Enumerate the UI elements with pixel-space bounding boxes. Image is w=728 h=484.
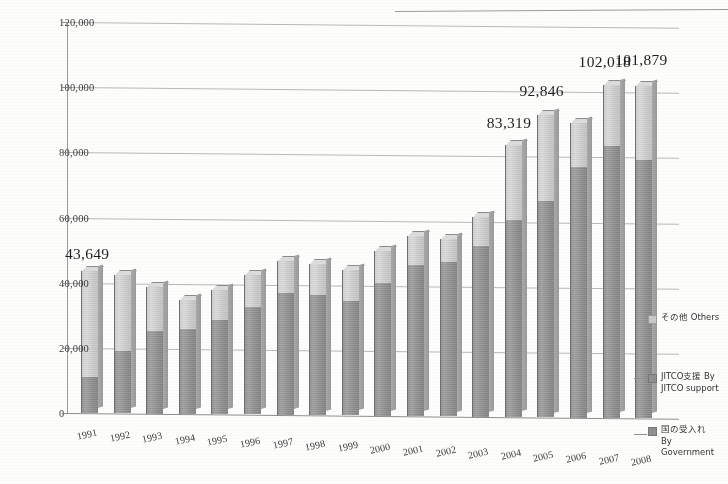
segment-government [81,377,98,413]
bar-side-face [424,230,429,411]
bar-1997 [277,261,294,414]
x-tick-label: 2000 [369,441,391,456]
bar-2001 [407,236,424,416]
bar-2007 [603,85,620,417]
bar-side-face [652,80,657,414]
x-tick-label: 1998 [304,438,326,453]
legend-leader-line [634,378,647,379]
segment-others [472,217,489,246]
segment-government [114,351,131,414]
bar-series-group [67,22,679,413]
bar-stack [374,251,391,416]
bar-side-face [98,264,103,408]
bar-stack [146,287,163,414]
segment-others [146,287,163,331]
segment-government [211,320,228,414]
bar-stack [635,86,652,418]
segment-others [211,290,228,320]
segment-others [277,261,294,292]
segment-government [342,301,359,416]
bar-stack [570,123,587,418]
bar-1999 [342,270,359,415]
segment-others [537,115,554,201]
x-tick-label: 2007 [598,452,620,467]
segment-government [537,201,554,418]
plot-area [67,22,679,413]
bar-side-face [522,139,527,412]
bar-side-face [163,280,168,409]
segment-others [309,264,326,296]
segment-government [603,146,620,418]
bar-stack [179,300,196,414]
bar-side-face [620,79,625,413]
bar-side-face [489,210,494,411]
bar-2002 [440,239,457,417]
bar-side-face [359,264,364,411]
segment-others [374,251,391,283]
x-tick-label: 1994 [174,431,196,446]
bar-stack [603,85,620,417]
bar-1996 [244,275,261,414]
bar-2008 [635,86,652,418]
value-label-2004: 83,319 [487,114,531,132]
bar-side-face [228,283,233,409]
segment-others [570,123,587,167]
bar-side-face [196,293,201,409]
y-tick-mark [62,348,68,349]
value-label-1991: 43,649 [65,245,109,263]
segment-others [179,300,196,329]
value-label-2008: 101,879 [615,51,667,69]
bar-stack [537,115,554,418]
bar-side-face [587,116,592,412]
segment-government [472,246,489,416]
segment-others [603,85,620,145]
bar-stack [114,275,131,413]
stacked-column-chart: 120,000100,00080,00060,00040,00020,0000 … [0,0,728,484]
legend-swatch-icon [648,374,657,383]
y-tick-mark [62,413,68,414]
bar-side-face [554,108,559,412]
x-tick-label: 1999 [337,439,359,454]
segment-government [440,262,457,417]
bar-2003 [472,217,489,417]
bar-1993 [146,287,163,414]
x-tick-label: 1995 [206,433,228,448]
x-tick-label: 2005 [532,448,554,463]
y-tick-mark [62,87,68,88]
chart-frame-top-rule [395,9,728,12]
legend-swatch-icon [648,315,657,324]
legend-label: 国の受入れ By Government [661,424,714,459]
bar-side-face [131,268,136,408]
x-tick-label: 1993 [141,430,163,445]
segment-government [374,283,391,416]
x-tick-label: 2001 [402,442,424,457]
legend-item-others[interactable]: その他 Others [648,312,719,324]
segment-government [505,220,522,417]
bar-stack [440,239,457,417]
x-tick-label: 1997 [272,436,294,451]
bar-stack [472,217,489,417]
bar-2006 [570,123,587,418]
bar-side-face [391,245,396,411]
segment-others [342,270,359,300]
bar-1992 [114,275,131,413]
x-tick-label: 2006 [565,450,587,465]
bar-2005 [537,115,554,418]
x-tick-label: 2002 [435,444,457,459]
value-label-2005: 92,846 [519,82,563,100]
legend-item-jitco[interactable]: JITCO支援 By JITCO support [648,371,719,394]
bar-side-face [294,255,299,410]
y-tick-mark [62,283,68,284]
y-tick-mark [62,218,68,219]
segment-others [505,145,522,219]
bar-1994 [179,300,196,414]
bar-1995 [211,290,228,414]
segment-government [244,307,261,415]
bar-stack [211,290,228,414]
legend-label: JITCO支援 By JITCO support [661,371,719,394]
bar-side-face [326,257,331,410]
legend-item-gov[interactable]: 国の受入れ By Government [648,424,714,459]
bar-2004 [505,145,522,416]
segment-government [277,293,294,415]
segment-government [570,167,587,418]
